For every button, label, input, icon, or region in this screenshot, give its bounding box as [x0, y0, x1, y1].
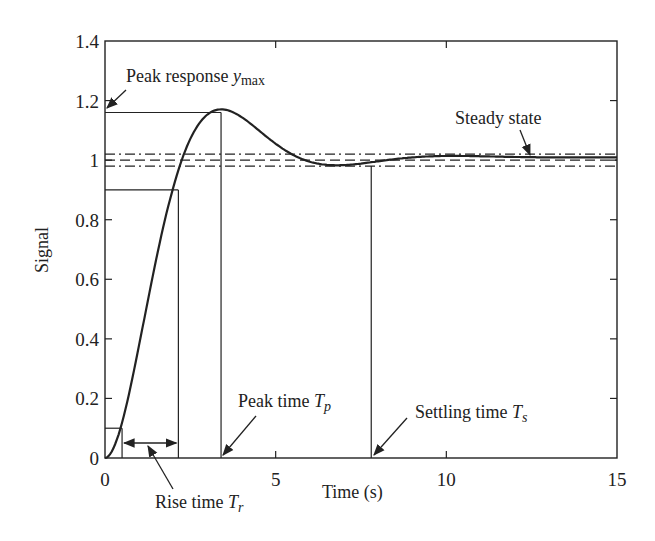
x-tick-label: 5 — [271, 469, 281, 490]
y-tick-label: 0.6 — [75, 269, 99, 290]
x-tick-label: 0 — [100, 469, 110, 490]
y-tick-label: 1.4 — [75, 31, 99, 52]
x-tick-label: 10 — [437, 469, 456, 490]
step-response-chart: 05101500.20.40.60.811.21.4 Time (s) Sign… — [0, 0, 655, 541]
y-tick-label: 0 — [90, 448, 100, 469]
peak-response-arrow — [107, 90, 126, 108]
peak-time-annotation: Peak time Tp — [238, 391, 331, 414]
y-tick-label: 0.8 — [75, 210, 99, 231]
response-curve — [105, 109, 617, 458]
rise-time-annotation: Rise time Tr — [155, 492, 244, 515]
y-tick-label: 1.2 — [75, 91, 99, 112]
annotation-arrows — [107, 90, 530, 489]
y-tick-label: 1 — [90, 150, 100, 171]
peak-response-annotation: Peak response ymax — [126, 66, 265, 88]
y-tick-label: 0.2 — [75, 388, 99, 409]
x-axis-label: Time (s) — [322, 482, 383, 503]
steady-state-arrow — [520, 130, 530, 155]
y-axis-label: Signal — [32, 227, 52, 273]
peak-time-arrow — [223, 416, 256, 455]
settling-time-arrow — [374, 418, 407, 455]
rise-time-arrow — [148, 446, 173, 489]
x-tick-label: 15 — [608, 469, 627, 490]
steady-state-annotation: Steady state — [455, 108, 541, 128]
axis-ticks: 05101500.20.40.60.811.21.4 — [75, 31, 626, 490]
plot-frame — [105, 41, 617, 458]
settling-time-annotation: Settling time Ts — [415, 402, 528, 425]
plot-axes — [105, 41, 617, 458]
y-tick-label: 0.4 — [75, 329, 99, 350]
